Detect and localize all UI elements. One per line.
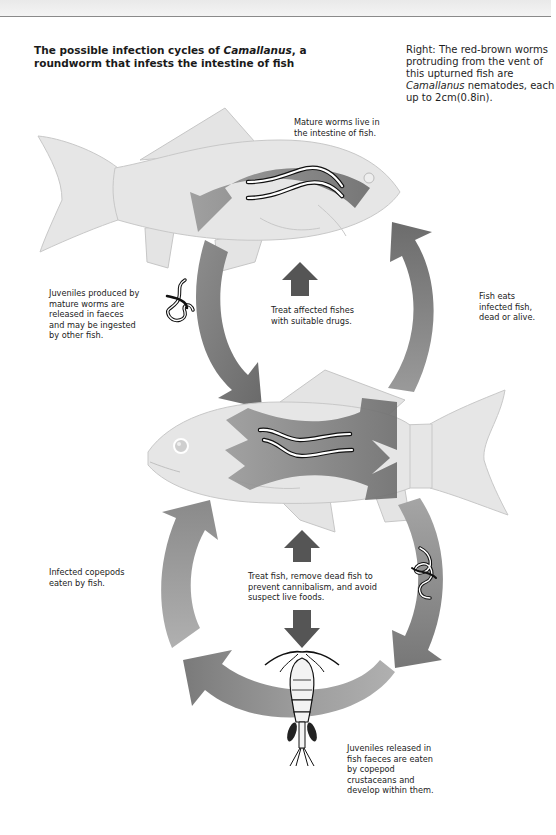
label-mature-worms: Mature worms live in the intestine of fi…: [294, 117, 394, 138]
cycle-arrow-right-bottom: [392, 498, 443, 668]
label-juveniles-released: Juveniles released in fish faeces are ea…: [347, 743, 439, 796]
cycle-arrow-bottom: [183, 650, 395, 718]
cycle-arrow-left-bottom: [161, 500, 218, 648]
juvenile-worms-icon: [167, 280, 193, 320]
treatment-arrow-up-top: [282, 262, 318, 296]
treatment-arrow-down-bottom: [284, 610, 320, 648]
label-infected-copepods: Infected copepods eaten by fish.: [49, 567, 139, 588]
label-treat-remove: Treat fish, remove dead fish to prevent …: [248, 571, 378, 603]
label-fish-eats: Fish eats infected fish, dead or alive.: [479, 291, 549, 323]
treatment-arrow-up-bottom: [284, 530, 320, 562]
label-treat-drugs: Treat affected fishes with suitable drug…: [271, 305, 361, 326]
label-juveniles-produced: Juveniles produced by mature worms are r…: [49, 288, 141, 341]
cycle-arrow-right-top: [388, 222, 434, 392]
